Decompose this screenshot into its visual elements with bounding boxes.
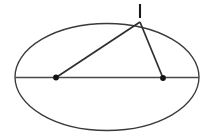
right-focus-dot: [160, 75, 166, 81]
left-focus-dot: [53, 75, 59, 81]
ellipse-diagram-svg: [0, 0, 212, 139]
left-focus-to-apex-line: [56, 22, 140, 78]
ellipse-diagram-canvas: [0, 0, 212, 139]
